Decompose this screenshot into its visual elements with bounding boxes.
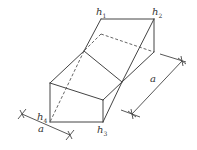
dim-line-right: [132, 61, 182, 114]
edge-center-h3: [103, 82, 122, 122]
label-h2: h2: [152, 7, 162, 19]
label-dim-bottom: a: [38, 124, 44, 134]
dim-tick-bottom-left-2: [20, 110, 24, 118]
edge-rightbox-center: [103, 82, 122, 100]
hidden-edge-leftmid-h4: [50, 51, 84, 122]
hidden-edge-back-top: [101, 34, 154, 52]
label-h1: h1: [96, 7, 106, 19]
label-h3: h3: [97, 125, 107, 137]
edge-leftmid-center: [84, 51, 122, 82]
edge-leftmid-leftbox: [50, 51, 84, 83]
hidden-edge-back-left: [84, 34, 101, 51]
diagram-canvas: h1 h2 h3 h4 a a: [0, 0, 197, 150]
label-dim-right: a: [150, 74, 156, 84]
edge-h1-leftmid: [84, 19, 101, 51]
dim-ext-right-bottom: [121, 110, 140, 117]
edge-leftbox-rightbox: [50, 83, 103, 100]
dim-tick-bottom-right-2: [68, 131, 72, 139]
